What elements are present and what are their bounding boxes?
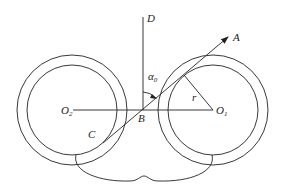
label-alpha0: α0 <box>148 70 158 84</box>
label-d: D <box>146 12 155 24</box>
label-r: r <box>192 91 197 103</box>
bottom-lobe <box>76 155 213 181</box>
tangent-line-ca <box>103 37 228 143</box>
radius-line <box>184 75 213 110</box>
geometry-diagram: D A B C r α0 O2 O1 <box>0 0 281 196</box>
label-o1: O1 <box>216 104 227 118</box>
label-a: A <box>232 31 240 43</box>
label-o2: O2 <box>61 104 73 118</box>
label-b: B <box>138 112 145 124</box>
angle-arrow-icon <box>150 94 157 99</box>
label-c: C <box>88 128 96 140</box>
